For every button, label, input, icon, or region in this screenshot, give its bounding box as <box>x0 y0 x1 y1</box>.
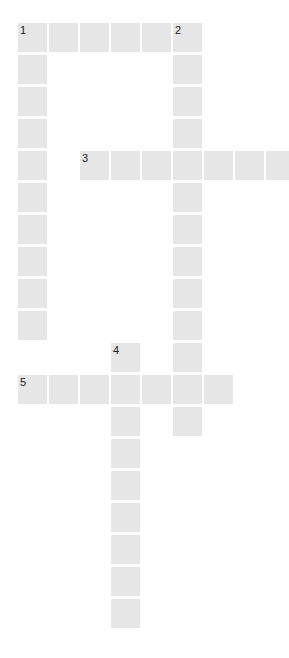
crossword-cell[interactable] <box>18 247 47 276</box>
crossword-cell[interactable] <box>111 567 140 596</box>
crossword-cell[interactable] <box>111 439 140 468</box>
crossword-cell[interactable] <box>111 471 140 500</box>
crossword-cell[interactable] <box>18 87 47 116</box>
crossword-cell[interactable]: 5 <box>18 375 47 404</box>
crossword-cell[interactable] <box>204 375 233 404</box>
crossword-cell[interactable] <box>18 55 47 84</box>
crossword-cell[interactable] <box>111 535 140 564</box>
crossword-cell[interactable] <box>111 375 140 404</box>
clue-number: 1 <box>20 24 26 36</box>
crossword-cell[interactable] <box>173 311 202 340</box>
clue-number: 4 <box>113 344 119 356</box>
crossword-cell[interactable] <box>18 279 47 308</box>
crossword-cell[interactable] <box>173 87 202 116</box>
crossword-cell[interactable] <box>18 215 47 244</box>
crossword-cell[interactable] <box>18 119 47 148</box>
crossword-cell[interactable] <box>235 151 264 180</box>
crossword-cell[interactable] <box>173 247 202 276</box>
crossword-cell[interactable] <box>173 55 202 84</box>
crossword-cell[interactable] <box>80 23 109 52</box>
crossword-cell[interactable] <box>18 311 47 340</box>
crossword-cell[interactable] <box>49 375 78 404</box>
crossword-cell[interactable] <box>173 375 202 404</box>
crossword-cell[interactable] <box>111 407 140 436</box>
crossword-cell[interactable] <box>173 343 202 372</box>
crossword-cell[interactable]: 3 <box>80 151 109 180</box>
crossword-cell[interactable] <box>111 151 140 180</box>
crossword-cell[interactable] <box>173 279 202 308</box>
crossword-cell[interactable] <box>173 215 202 244</box>
crossword-cell[interactable] <box>80 375 109 404</box>
crossword-cell[interactable] <box>111 23 140 52</box>
crossword-cell[interactable] <box>142 23 171 52</box>
crossword-cell[interactable] <box>266 151 289 180</box>
clue-number: 3 <box>82 152 88 164</box>
crossword-cell[interactable] <box>173 119 202 148</box>
crossword-cell[interactable] <box>173 183 202 212</box>
crossword-grid: 12345 <box>0 0 289 658</box>
crossword-cell[interactable] <box>173 151 202 180</box>
crossword-cell[interactable] <box>173 407 202 436</box>
crossword-cell[interactable]: 4 <box>111 343 140 372</box>
clue-number: 5 <box>20 376 26 388</box>
crossword-cell[interactable] <box>142 375 171 404</box>
crossword-cell[interactable]: 1 <box>18 23 47 52</box>
crossword-cell[interactable] <box>142 151 171 180</box>
crossword-cell[interactable] <box>204 151 233 180</box>
crossword-cell[interactable] <box>111 599 140 628</box>
crossword-cell[interactable] <box>49 23 78 52</box>
crossword-cell[interactable]: 2 <box>173 23 202 52</box>
clue-number: 2 <box>175 24 181 36</box>
crossword-cell[interactable] <box>18 183 47 212</box>
crossword-cell[interactable] <box>18 151 47 180</box>
crossword-cell[interactable] <box>111 503 140 532</box>
